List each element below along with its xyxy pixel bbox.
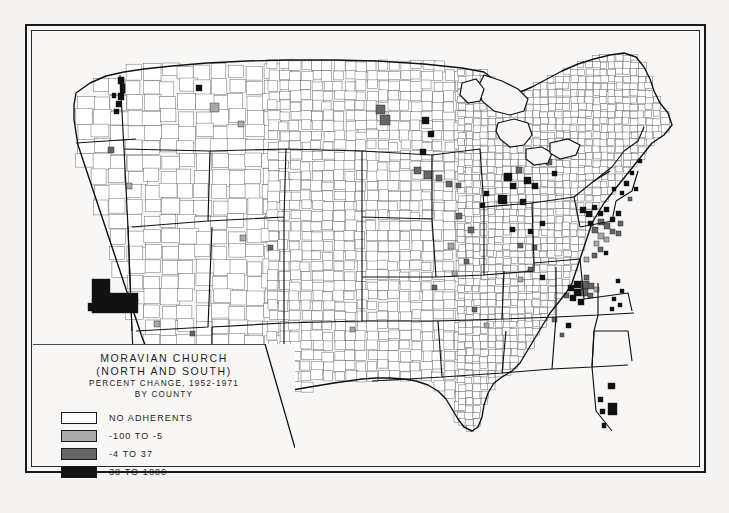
county-cell	[312, 241, 324, 250]
county-cell	[322, 221, 333, 230]
county-cell	[541, 174, 549, 180]
county-cell	[323, 202, 334, 212]
county-cell	[195, 170, 210, 185]
county-cell	[334, 331, 344, 342]
shaded-county	[524, 177, 531, 184]
county-cell	[465, 391, 472, 397]
county-cell	[458, 412, 466, 419]
county-cell	[623, 68, 630, 74]
county-cell	[432, 141, 441, 150]
county-cell	[346, 70, 356, 79]
county-cell	[423, 290, 433, 301]
county-cell	[480, 174, 487, 180]
county-cell	[143, 63, 161, 80]
county-cell	[179, 245, 196, 260]
county-cell	[229, 244, 246, 258]
county-cell	[571, 75, 579, 82]
county-cell	[334, 192, 346, 200]
shaded-county	[126, 183, 132, 189]
county-cell	[300, 262, 309, 272]
county-cell	[473, 167, 481, 173]
county-cell	[630, 68, 637, 75]
county-cell	[211, 139, 228, 152]
shaded-county	[456, 183, 461, 188]
county-cell	[355, 160, 367, 171]
shaded-county	[268, 245, 273, 250]
county-cell	[564, 265, 571, 272]
county-cell	[334, 211, 345, 222]
county-cell	[594, 76, 602, 82]
county-cell	[399, 320, 411, 330]
county-cell	[571, 104, 579, 112]
county-cell	[335, 302, 346, 311]
county-cell	[518, 159, 526, 166]
county-cell	[458, 335, 466, 342]
county-cell	[355, 331, 365, 342]
county-cell	[564, 201, 570, 209]
county-cell	[511, 315, 518, 322]
county-cell	[368, 351, 379, 360]
county-cell	[345, 331, 356, 340]
county-cell	[109, 168, 125, 183]
county-cell	[388, 91, 398, 100]
county-cell	[563, 90, 571, 96]
county-cell	[324, 132, 335, 141]
county-cell	[301, 90, 310, 100]
shaded-county	[540, 221, 545, 226]
county-cell	[422, 251, 434, 261]
shaded-county	[504, 173, 512, 181]
shaded-county	[376, 105, 385, 114]
county-cell	[495, 175, 501, 181]
county-cell	[517, 300, 524, 307]
county-cell	[503, 300, 511, 307]
county-cell	[562, 104, 569, 110]
county-cell	[267, 210, 279, 220]
legend-swatch-moderate	[61, 448, 97, 460]
county-cell	[301, 300, 310, 310]
county-cell	[519, 286, 525, 292]
county-cell	[466, 237, 473, 244]
county-cell	[422, 262, 431, 270]
county-cell	[302, 242, 313, 252]
county-cell	[144, 305, 160, 317]
shaded-county	[116, 101, 121, 107]
county-cell	[246, 67, 263, 80]
county-cell	[474, 153, 481, 160]
county-cell	[269, 161, 280, 171]
county-cell	[600, 118, 607, 124]
county-cell	[592, 167, 600, 173]
county-cell	[230, 80, 246, 93]
county-cell	[300, 131, 311, 142]
county-cell	[615, 125, 622, 133]
county-cell	[145, 245, 161, 259]
county-cell	[488, 280, 496, 286]
county-cell	[586, 195, 592, 201]
county-cell	[473, 391, 480, 399]
county-cell	[433, 301, 444, 309]
county-cell	[458, 202, 466, 208]
shaded-county	[350, 327, 355, 332]
county-cell	[280, 331, 291, 342]
county-cell	[401, 91, 411, 101]
county-cell	[313, 152, 322, 160]
county-cell	[324, 110, 334, 120]
county-cell	[510, 307, 518, 314]
county-cell	[389, 162, 399, 172]
county-cell	[126, 200, 142, 214]
county-cell	[388, 100, 400, 111]
county-cell	[465, 412, 473, 419]
county-cell	[161, 319, 176, 335]
county-cell	[366, 270, 378, 280]
shaded-county	[612, 297, 616, 301]
county-cell	[517, 216, 524, 222]
county-cell	[525, 166, 532, 173]
county-cell	[466, 202, 472, 209]
county-cell	[601, 112, 608, 118]
county-cell	[487, 292, 495, 300]
county-cell	[355, 212, 367, 222]
county-cell	[93, 153, 111, 170]
county-cell	[211, 217, 227, 230]
county-cell	[302, 71, 314, 81]
county-cell	[503, 187, 511, 193]
county-cell	[466, 145, 472, 153]
